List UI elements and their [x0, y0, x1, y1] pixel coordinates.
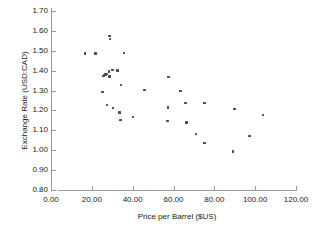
- data-point: [185, 121, 187, 123]
- data-point: [106, 104, 108, 106]
- data-point: [143, 89, 145, 91]
- data-point: [184, 102, 186, 104]
- data-point: [232, 150, 234, 152]
- data-point: [94, 52, 96, 54]
- data-point: [195, 133, 197, 135]
- x-tick-mark: [214, 186, 215, 191]
- x-tick-label: 60.00: [152, 196, 196, 204]
- y-tick-mark: [52, 91, 56, 92]
- y-tick-label: 1.40: [18, 67, 48, 75]
- x-tick-label: 40.00: [111, 196, 155, 204]
- data-point: [262, 114, 264, 116]
- x-tick-mark: [296, 186, 297, 191]
- data-point: [248, 135, 250, 137]
- y-tick-label: 1.10: [18, 126, 48, 134]
- data-point: [108, 75, 110, 77]
- y-axis-line: [51, 8, 52, 191]
- data-point: [104, 73, 106, 75]
- data-point: [119, 119, 121, 121]
- data-point: [203, 102, 205, 104]
- x-tick-label: 80.00: [192, 196, 236, 204]
- y-axis-title: Exchange Rate (USD:CAD): [20, 21, 29, 181]
- x-tick-mark: [255, 186, 256, 191]
- data-point: [233, 108, 235, 110]
- data-point: [167, 106, 169, 108]
- x-axis-line: [58, 190, 296, 191]
- data-point: [120, 84, 122, 86]
- data-point: [179, 90, 181, 92]
- data-point: [203, 142, 205, 144]
- data-point: [112, 107, 114, 109]
- y-tick-mark: [52, 110, 56, 111]
- data-point: [167, 76, 169, 78]
- x-tick-label: 120.00: [274, 196, 317, 204]
- data-point: [101, 91, 103, 93]
- data-point: [116, 69, 118, 71]
- data-point: [84, 52, 86, 54]
- x-tick-mark: [133, 186, 134, 191]
- data-point: [108, 35, 110, 37]
- y-tick-mark: [52, 11, 56, 12]
- y-tick-mark: [52, 51, 56, 52]
- y-tick-label: 1.30: [18, 87, 48, 95]
- y-tick-label: 1.50: [18, 47, 48, 55]
- data-point: [118, 111, 120, 113]
- x-tick-label: 20.00: [70, 196, 114, 204]
- data-point: [111, 69, 113, 71]
- y-tick-label: 1.70: [18, 7, 48, 15]
- data-point: [109, 38, 111, 40]
- data-point: [123, 52, 125, 54]
- y-tick-mark: [52, 190, 56, 191]
- x-tick-mark: [92, 186, 93, 191]
- y-tick-label: 0.90: [18, 166, 48, 174]
- y-tick-label: 1.00: [18, 146, 48, 154]
- x-tick-label: 0.00: [29, 196, 73, 204]
- data-point: [102, 75, 104, 77]
- x-tick-label: 100.00: [233, 196, 277, 204]
- data-point: [105, 73, 107, 75]
- y-tick-mark: [52, 150, 56, 151]
- data-point: [166, 120, 168, 122]
- scatter-chart: Exchange Rate (USD:CAD) 1.701.601.501.40…: [0, 0, 317, 230]
- data-point: [132, 116, 134, 118]
- y-tick-mark: [52, 170, 56, 171]
- y-tick-mark: [52, 130, 56, 131]
- y-tick-mark: [52, 71, 56, 72]
- y-tick-mark: [52, 31, 56, 32]
- y-tick-label: 1.60: [18, 27, 48, 35]
- y-tick-label: 0.80: [18, 186, 48, 194]
- x-tick-mark: [174, 186, 175, 191]
- x-axis-title: Price per Barrel ($US): [58, 212, 296, 221]
- data-point: [103, 74, 105, 76]
- data-point: [108, 70, 110, 72]
- y-tick-label: 1.20: [18, 106, 48, 114]
